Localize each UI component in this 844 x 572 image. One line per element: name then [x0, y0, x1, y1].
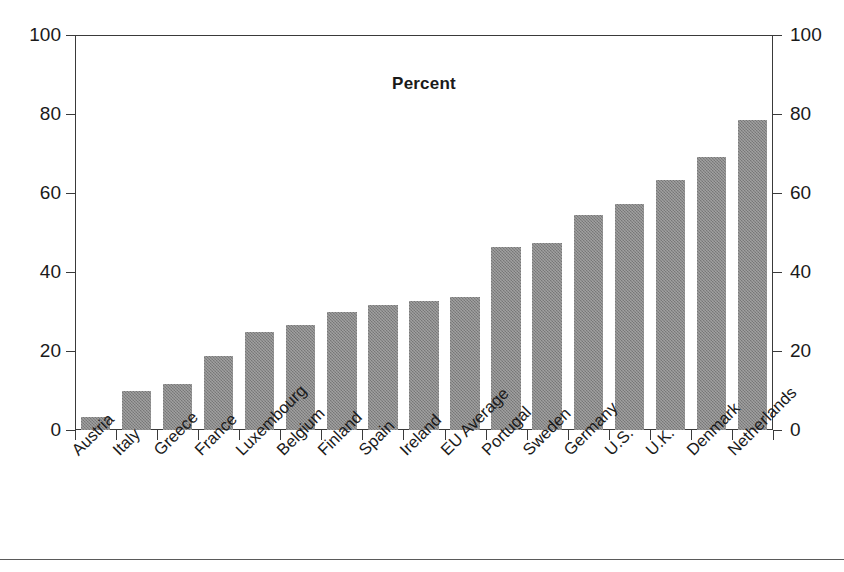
y-tick-label-left: 20	[40, 341, 61, 360]
bars-container	[75, 35, 773, 430]
y-tick-mark-right	[773, 351, 782, 352]
bar	[409, 301, 438, 430]
bar	[615, 204, 644, 430]
bar	[656, 180, 685, 430]
bar	[574, 215, 603, 430]
y-tick-mark-left	[66, 35, 75, 36]
bottom-divider	[0, 559, 844, 560]
bar	[738, 120, 767, 430]
y-tick-mark-left	[66, 351, 75, 352]
y-tick-label-right: 0	[790, 420, 801, 439]
y-tick-mark-left	[66, 114, 75, 115]
y-tick-label-right: 60	[790, 183, 811, 202]
y-tick-mark-left	[66, 193, 75, 194]
y-tick-label-left: 100	[29, 25, 61, 44]
y-tick-mark-right	[773, 35, 782, 36]
y-tick-mark-right	[773, 114, 782, 115]
y-tick-label-right: 40	[790, 262, 811, 281]
y-tick-mark-right	[773, 272, 782, 273]
y-tick-label-right: 100	[790, 25, 822, 44]
x-tick-mark	[773, 430, 774, 440]
y-tick-mark-right	[773, 193, 782, 194]
y-tick-label-right: 20	[790, 341, 811, 360]
bar	[532, 243, 561, 430]
y-tick-label-left: 60	[40, 183, 61, 202]
y-tick-label-right: 80	[790, 104, 811, 123]
chart-figure: Percent 002020404060608080100100 Austria…	[0, 0, 844, 572]
y-tick-mark-left	[66, 272, 75, 273]
y-tick-mark-left	[66, 430, 75, 431]
bar	[368, 305, 397, 430]
y-tick-mark-right	[773, 430, 782, 431]
y-tick-label-left: 80	[40, 104, 61, 123]
bar	[122, 391, 151, 430]
bar	[697, 157, 726, 430]
y-tick-label-left: 0	[50, 420, 61, 439]
y-tick-label-left: 40	[40, 262, 61, 281]
